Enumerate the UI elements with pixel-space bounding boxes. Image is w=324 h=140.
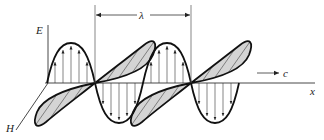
wavelength-label: λ: [138, 9, 144, 21]
e-axis-label: E: [35, 24, 43, 36]
em-wave-diagram: λ c E H x: [0, 0, 324, 140]
speed-label: c: [283, 67, 288, 79]
h-axis-label: H: [5, 122, 15, 134]
x-axis-label: x: [309, 85, 315, 97]
